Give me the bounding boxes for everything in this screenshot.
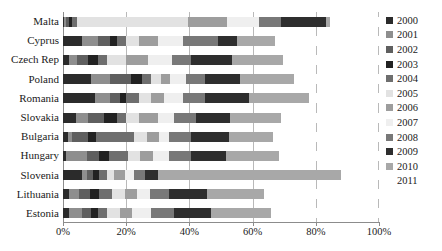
bar-segment-2003 [90,189,99,199]
bar-segment-2006 [188,17,226,27]
bar-segment-2007 [148,55,172,65]
bar-track [63,74,379,84]
bar-segment-2002 [72,132,88,142]
legend-swatch-icon-2000 [386,17,393,24]
legend-label: 2005 [397,88,418,99]
bar-segment-2003 [104,113,117,123]
y-axis-label-czech-rep: Czech Rep [0,54,59,65]
legend-label: 2000 [397,15,418,26]
legend-swatch-icon-2006 [386,104,393,111]
x-axis-tick-label: 20% [117,226,136,238]
legend-item-2009[interactable]: 2009 [386,144,442,159]
bar-segment-2008 [186,74,205,84]
bar-segment-2008 [183,93,205,103]
bar-segment-2007 [227,17,259,27]
legend-swatch-icon-2002 [386,46,393,53]
bar-segment-2007 [125,170,134,180]
bar-track [63,151,379,161]
bar-segment-2002 [82,208,91,218]
legend-item-2004[interactable]: 2004 [386,71,442,86]
bar-segment-2005 [151,74,160,84]
legend-item-2008[interactable]: 2008 [386,130,442,145]
bar-segment-2010 [211,208,271,218]
legend-swatch-icon-2010 [386,163,393,170]
legend-label: 2001 [397,29,418,40]
bar-segment-2006 [139,36,158,46]
bar-segment-2010 [249,93,309,103]
legend-item-2010[interactable]: 2010 [386,159,442,174]
bar-segment-2002 [77,55,88,65]
bar-segment-2000 [63,74,91,84]
legend-label: 2003 [397,59,418,70]
bar-segment-2004 [142,74,151,84]
bar-segment-2002 [110,74,131,84]
legend-swatch-icon-2009 [386,148,393,155]
bar-segment-2004 [98,55,107,65]
bar-segment-2002 [79,189,90,199]
y-axis-label-cyprus: Cyprus [0,35,59,46]
bar-segment-2009 [205,74,240,84]
bar-segment-2005 [107,55,126,65]
bar-segment-2007 [164,93,183,103]
legend-item-2001[interactable]: 2001 [386,28,442,43]
legend-item-2000[interactable]: 2000 [386,13,442,28]
bar-segment-2001 [76,113,89,123]
stacked-bar-chart: MaltaCyprusCzech RepPolandRomaniaSlovaki… [0,0,442,251]
legend-item-2002[interactable]: 2002 [386,42,442,57]
bar-row [63,170,379,180]
bar-segment-2008 [151,208,173,218]
x-axis-line [63,222,379,223]
bar-segment-2005 [77,17,189,27]
bar-track [63,189,379,199]
bar-segment-2000 [63,36,82,46]
legend-swatch-icon-2003 [386,61,393,68]
bar-segment-2008 [174,113,196,123]
bar-segment-2011 [283,55,379,65]
bar-segment-2008 [259,17,281,27]
y-axis-label-bulgaria: Bulgaria [0,131,59,142]
y-axis-label-slovakia: Slovakia [0,112,59,123]
bar-segment-2010 [237,36,275,46]
legend-item-2006[interactable]: 2006 [386,101,442,116]
bar-segment-2000 [63,170,82,180]
bar-segment-2001 [69,208,82,218]
bar-segment-2009 [281,17,326,27]
y-axis-label-poland: Poland [0,74,59,85]
bar-segment-2009 [145,170,158,180]
bar-segment-2003 [88,132,96,142]
bar-segment-2003 [99,151,108,161]
legend-item-2003[interactable]: 2003 [386,57,442,72]
legend-item-2011[interactable]: 2011 [386,174,442,189]
bar-segment-2011 [264,189,379,199]
bar-segment-2005 [128,151,141,161]
bar-row [63,93,379,103]
bar-segment-2009 [191,151,226,161]
plot-area [63,12,379,223]
bar-segment-2007 [158,36,183,46]
legend: 2000200120022003200420052006200720082009… [386,13,442,188]
legend-swatch-icon-2007 [386,119,393,126]
bar-row [63,55,379,65]
legend-label: 2009 [397,146,418,157]
x-axis-tick-label: 100% [367,226,392,238]
bar-segment-2010 [226,151,280,161]
bar-rows [63,12,379,223]
bar-row [63,36,379,46]
bar-track [63,17,379,27]
bar-segment-2005 [112,189,125,199]
bar-segment-2010 [207,189,264,199]
bar-segment-2009 [191,55,232,65]
legend-item-2007[interactable]: 2007 [386,115,442,130]
bar-segment-2004 [126,93,139,103]
bar-segment-2008 [172,55,191,65]
y-axis-label-slovenia: Slovenia [0,170,59,181]
bar-row [63,151,379,161]
bar-segment-2008 [150,189,169,199]
bar-segment-2008 [169,151,191,161]
bar-segment-2010 [240,74,294,84]
legend-label: 2008 [397,132,418,143]
bar-segment-2008 [183,36,218,46]
bar-segment-2002 [88,113,104,123]
legend-item-2005[interactable]: 2005 [386,86,442,101]
bar-segment-2006 [161,74,170,84]
